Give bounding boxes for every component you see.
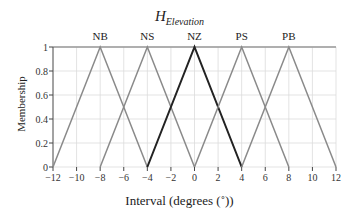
svg-text:0.2: 0.2 <box>36 138 49 149</box>
mf-label-nz: NZ <box>187 30 202 42</box>
svg-text:−4: −4 <box>142 172 153 183</box>
svg-text:−2: −2 <box>166 172 177 183</box>
svg-text:0.6: 0.6 <box>36 90 49 101</box>
svg-text:−8: −8 <box>95 172 106 183</box>
mf-label-ps: PS <box>236 30 248 42</box>
y-ticks: 00.20.40.60.81 <box>36 42 54 173</box>
svg-text:1: 1 <box>43 42 48 53</box>
y-axis-label: Membership <box>15 69 27 139</box>
svg-text:−10: −10 <box>69 172 85 183</box>
svg-text:2: 2 <box>216 172 221 183</box>
svg-text:8: 8 <box>286 172 291 183</box>
svg-text:10: 10 <box>307 172 317 183</box>
grid <box>53 47 336 167</box>
mf-label-pb: PB <box>282 30 295 42</box>
svg-text:0: 0 <box>192 172 197 183</box>
mf-label-nb: NB <box>93 30 108 42</box>
svg-text:0.4: 0.4 <box>36 114 49 125</box>
svg-text:−12: −12 <box>45 172 61 183</box>
x-axis-label: Interval (degrees (˚)) <box>0 193 359 209</box>
svg-text:0.8: 0.8 <box>36 66 49 77</box>
svg-text:0: 0 <box>43 162 48 173</box>
x-ticks: −12−10−8−6−4−2024681012 <box>45 167 341 183</box>
svg-text:−6: −6 <box>118 172 129 183</box>
membership-plot: −12−10−8−6−4−202468101200.20.40.60.81NBN… <box>0 0 359 219</box>
svg-text:4: 4 <box>239 172 244 183</box>
svg-text:6: 6 <box>263 172 268 183</box>
mf-label-ns: NS <box>140 30 154 42</box>
svg-text:12: 12 <box>331 172 341 183</box>
